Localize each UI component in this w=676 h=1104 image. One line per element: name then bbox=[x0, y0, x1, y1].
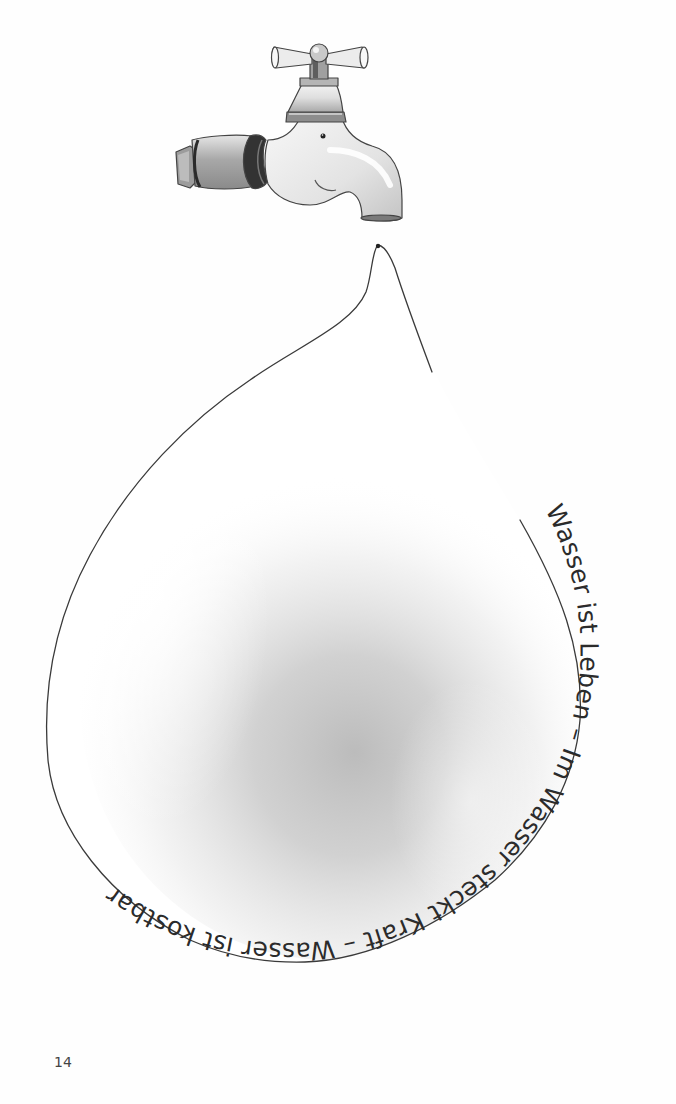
page-number: 14 bbox=[54, 1054, 72, 1070]
book-page: Wasser ist Leben – Im Wasser steckt Kraf… bbox=[0, 0, 676, 1104]
illustration: Wasser ist Leben – Im Wasser steckt Kraf… bbox=[0, 0, 676, 1104]
faucet-icon bbox=[176, 44, 402, 221]
